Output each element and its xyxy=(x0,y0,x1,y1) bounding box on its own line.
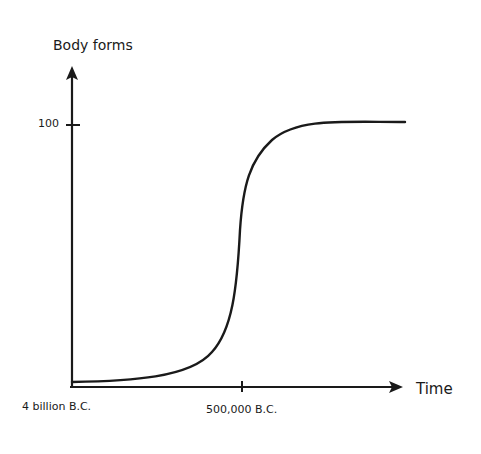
sigmoid-curve xyxy=(72,122,405,382)
chart-canvas xyxy=(0,0,481,454)
x-tick-label-start: 4 billion B.C. xyxy=(22,400,91,413)
x-axis-label: Time xyxy=(416,380,453,398)
y-tick-label-100: 100 xyxy=(38,117,59,130)
x-tick-label-mid: 500,000 B.C. xyxy=(206,403,277,416)
y-axis-label: Body forms xyxy=(53,37,133,53)
